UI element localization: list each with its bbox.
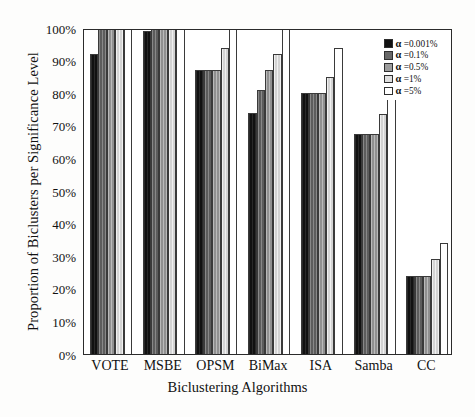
legend-item[interactable]: α =0.5% — [384, 62, 447, 73]
bar[interactable] — [168, 29, 176, 354]
bar[interactable] — [90, 54, 98, 354]
bar-group — [301, 30, 343, 354]
bar[interactable] — [107, 29, 115, 354]
bar[interactable] — [362, 134, 370, 354]
legend-label: α =5% — [396, 86, 422, 96]
legend-swatch — [384, 39, 393, 48]
legend-label: α =1% — [396, 74, 422, 84]
bar[interactable] — [309, 93, 317, 354]
bar[interactable] — [354, 134, 362, 354]
y-axis-tick-labels: 100%90%80%70%60%50%40%30%20%10%0% — [28, 22, 76, 362]
legend-label: α =0.1% — [396, 50, 429, 60]
bar-chart-figure: Proportion of Biclusters per Significanc… — [0, 0, 475, 417]
bar[interactable] — [212, 70, 220, 354]
bar-group — [248, 30, 290, 354]
bar[interactable] — [273, 54, 281, 354]
bar[interactable] — [195, 70, 203, 354]
bar[interactable] — [440, 243, 448, 354]
bar[interactable] — [370, 134, 378, 354]
bar[interactable] — [257, 90, 265, 354]
y-axis-tick-label: 100% — [28, 23, 76, 36]
y-axis-tick-label: 60% — [28, 153, 76, 166]
y-axis-tick-label: 90% — [28, 55, 76, 68]
y-axis-tick-label: 10% — [28, 316, 76, 329]
bar[interactable] — [221, 48, 229, 354]
bar[interactable] — [423, 276, 431, 354]
legend-label: α =0.5% — [396, 62, 429, 72]
y-axis-tick-label: 20% — [28, 283, 76, 296]
y-axis-tick-label: 40% — [28, 218, 76, 231]
legend-swatch — [384, 75, 393, 84]
bar[interactable] — [151, 29, 159, 354]
bar[interactable] — [318, 93, 326, 354]
bar[interactable] — [229, 29, 237, 354]
y-axis-tick-label: 50% — [28, 186, 76, 199]
bar[interactable] — [204, 70, 212, 354]
bar[interactable] — [431, 259, 439, 354]
bar[interactable] — [326, 77, 334, 354]
legend-item[interactable]: α =0.001% — [384, 38, 447, 49]
bar[interactable] — [159, 29, 167, 354]
y-axis-tick-label: 30% — [28, 251, 76, 264]
bar[interactable] — [176, 29, 184, 354]
bar[interactable] — [248, 113, 256, 354]
bar[interactable] — [387, 83, 395, 354]
bar[interactable] — [124, 29, 132, 354]
bar[interactable] — [415, 276, 423, 354]
x-axis-tick-label: CC — [386, 357, 466, 374]
y-axis-tick-label: 70% — [28, 120, 76, 133]
legend-item[interactable]: α =1% — [384, 73, 447, 84]
bar[interactable] — [334, 48, 342, 354]
bar-group — [143, 30, 185, 354]
bar[interactable] — [282, 29, 290, 354]
bar[interactable] — [301, 93, 309, 354]
y-axis-tick-label: 0% — [28, 349, 76, 362]
bar[interactable] — [265, 70, 273, 354]
x-axis-title: Biclustering Algorithms — [0, 379, 475, 396]
bar-group — [90, 30, 132, 354]
bar-group — [195, 30, 237, 354]
bar[interactable] — [143, 31, 151, 354]
legend-swatch — [384, 63, 393, 72]
y-axis-tick-label: 80% — [28, 88, 76, 101]
legend-swatch — [384, 51, 393, 60]
bar[interactable] — [379, 114, 387, 354]
legend-label: α =0.001% — [396, 39, 438, 49]
x-axis-tick-labels: VOTEMSBEOPSMBiMaxISASambaCC — [83, 357, 452, 377]
legend-item[interactable]: α =0.1% — [384, 50, 447, 61]
bar[interactable] — [406, 276, 414, 354]
bar[interactable] — [115, 29, 123, 354]
legend: α =0.001%α =0.1%α =0.5%α =1%α =5% — [381, 36, 449, 100]
legend-swatch — [384, 87, 393, 96]
bar[interactable] — [98, 29, 106, 354]
legend-item[interactable]: α =5% — [384, 85, 447, 96]
